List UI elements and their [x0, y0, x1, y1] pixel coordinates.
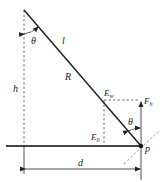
l-label: l — [62, 35, 65, 46]
theta-arc-right — [128, 128, 140, 131]
force-geometry-diagram: θ l R h Ew E0 Fh θ p d — [0, 0, 164, 182]
pivot-point-p — [139, 144, 143, 148]
d-label: d — [78, 157, 84, 168]
theta-label-top: θ — [31, 35, 36, 46]
h-label: h — [13, 83, 18, 94]
E-w-label: Ew — [103, 88, 114, 99]
theta-label-right: θ — [128, 116, 133, 127]
F-h-label: Fh — [143, 96, 153, 107]
theta-arc-top — [24, 27, 38, 34]
R-label: R — [64, 71, 71, 82]
p-label: p — [144, 143, 150, 154]
slanted-rod-line — [24, 10, 141, 146]
E-0-label: E0 — [90, 132, 100, 143]
